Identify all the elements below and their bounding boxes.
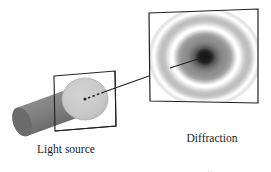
diffraction-label-line-1: Diffraction	[166, 132, 258, 144]
diffraction-diagram: Light source Diffraction pattern	[0, 0, 271, 172]
cylinder-end-face	[62, 78, 108, 120]
light-source-label: Light source	[0, 143, 132, 155]
diffraction-label-line-2: pattern	[166, 169, 258, 172]
pinhole-aperture	[83, 97, 86, 100]
projection-screen	[148, 7, 262, 107]
diffraction-pattern-label: Diffraction pattern	[166, 107, 258, 172]
diffraction-rings	[148, 7, 262, 107]
ring-core	[195, 48, 215, 66]
